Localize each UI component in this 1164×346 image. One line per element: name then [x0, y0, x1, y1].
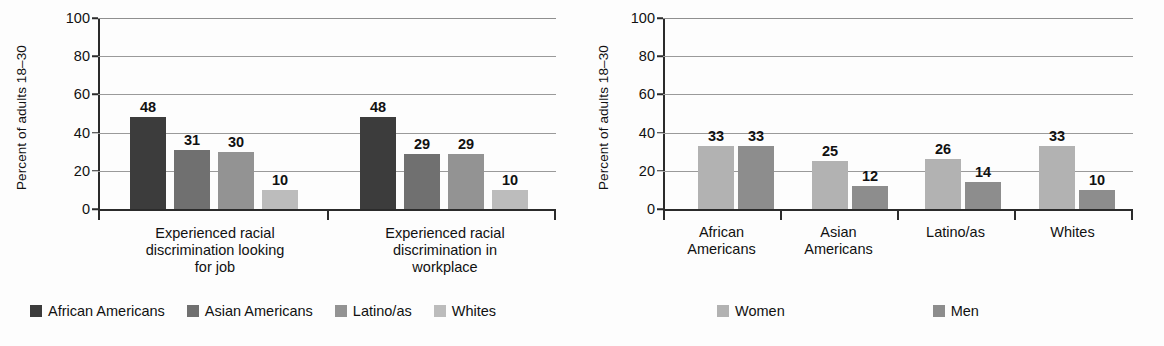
left-xcat-label-job: Experienced racial discrimination lookin…: [100, 225, 330, 276]
right-gridline-80: [663, 56, 1133, 57]
legend-label: Whites: [452, 303, 496, 319]
right-ytick-mark-80: [657, 55, 663, 57]
xcat-line: workplace: [330, 259, 560, 276]
right-plot-area: 100 80 60 40 20 0 33 33 25 12 26: [663, 18, 1133, 211]
right-y-axis-line: [663, 18, 665, 211]
right-ytick-label-60: 60: [639, 86, 655, 102]
bar-women-african-americans[interactable]: 33: [698, 146, 734, 209]
bar-women-latinoas[interactable]: 26: [925, 159, 961, 209]
xcat-line: African: [663, 224, 780, 241]
right-xtick-4: [1131, 211, 1133, 220]
left-ytick-mark-20: [92, 170, 98, 172]
xcat-line: Americans: [663, 241, 780, 258]
bar-value: 10: [272, 172, 288, 188]
right-ytick-mark-20: [657, 170, 663, 172]
right-xtick-0: [663, 211, 665, 220]
legend-label: Men: [951, 303, 979, 319]
right-xtick-3: [1014, 211, 1016, 220]
bar-value: 48: [140, 99, 156, 115]
bar-women-whites[interactable]: 33: [1039, 146, 1075, 209]
bar-latinoas-job[interactable]: 30: [218, 152, 254, 209]
left-ytick-mark-80: [92, 55, 98, 57]
legend-item-women[interactable]: Women: [717, 303, 785, 319]
left-xtick-mid: [327, 211, 329, 220]
xcat-line: for job: [100, 259, 330, 276]
legend-label: Latino/as: [353, 303, 412, 319]
left-ytick-label-20: 20: [74, 163, 90, 179]
right-xcat-label-whites: Whites: [1014, 224, 1131, 241]
xcat-line: Experienced racial: [100, 225, 330, 242]
right-ytick-label-80: 80: [639, 48, 655, 64]
left-ytick-mark-40: [92, 132, 98, 134]
legend-label: African Americans: [48, 303, 165, 319]
legend-swatch-icon: [434, 305, 446, 317]
bar-value: 10: [502, 172, 518, 188]
legend-item-men[interactable]: Men: [933, 303, 979, 319]
right-xtick-2: [897, 211, 899, 220]
bar-men-asian-americans[interactable]: 12: [852, 186, 888, 209]
bar-asian-americans-job[interactable]: 31: [174, 150, 210, 209]
xcat-line: Whites: [1014, 224, 1131, 241]
xcat-line: Americans: [780, 241, 897, 258]
bar-african-americans-job[interactable]: 48: [130, 117, 166, 209]
bar-value: 30: [228, 134, 244, 150]
legend-label: Women: [735, 303, 785, 319]
right-ytick-label-0: 0: [647, 201, 655, 217]
left-plot-area: 100 80 60 40 20 0 48 31 30 10 48: [98, 18, 556, 211]
legend-item-latinoas[interactable]: Latino/as: [335, 303, 412, 319]
right-xtick-1: [780, 211, 782, 220]
bar-value: 29: [458, 136, 474, 152]
chart-racial-discrimination-by-group: Percent of adults 18–30 100 80 60 40 20 …: [0, 0, 582, 346]
chart-page: Percent of adults 18–30 100 80 60 40 20 …: [0, 0, 1164, 346]
left-xcat-label-workplace: Experienced racial discrimination in wor…: [330, 225, 560, 276]
left-ytick-label-80: 80: [74, 48, 90, 64]
xcat-line: discrimination in: [330, 242, 560, 259]
bar-whites-job[interactable]: 10: [262, 190, 298, 209]
legend-swatch-icon: [187, 305, 199, 317]
bar-value: 31: [184, 132, 200, 148]
bar-men-whites[interactable]: 10: [1079, 190, 1115, 209]
left-ytick-label-60: 60: [74, 86, 90, 102]
xcat-line: Latino/as: [897, 224, 1014, 241]
legend-swatch-icon: [717, 305, 729, 317]
bar-value: 14: [975, 164, 991, 180]
xcat-line: discrimination looking: [100, 242, 330, 259]
legend-swatch-icon: [30, 305, 42, 317]
xcat-line: Asian: [780, 224, 897, 241]
right-ytick-label-40: 40: [639, 125, 655, 141]
bar-asian-americans-workplace[interactable]: 29: [404, 154, 440, 209]
right-ytick-mark-40: [657, 132, 663, 134]
bar-whites-workplace[interactable]: 10: [492, 190, 528, 209]
right-y-axis-label: Percent of adults 18–30: [596, 28, 611, 208]
bar-value: 29: [414, 136, 430, 152]
bar-value: 33: [748, 128, 764, 144]
legend-item-asian-americans[interactable]: Asian Americans: [187, 303, 313, 319]
bar-value: 10: [1089, 172, 1105, 188]
bar-men-latinoas[interactable]: 14: [965, 182, 1001, 209]
left-ytick-mark-100: [92, 17, 98, 19]
right-gridline-60: [663, 94, 1133, 95]
left-y-axis-label: Percent of adults 18–30: [14, 28, 29, 208]
left-ytick-mark-0: [92, 208, 98, 210]
bar-value: 33: [1049, 128, 1065, 144]
legend-swatch-icon: [335, 305, 347, 317]
left-legend: African Americans Asian Americans Latino…: [30, 303, 550, 319]
legend-item-whites[interactable]: Whites: [434, 303, 496, 319]
bar-value: 48: [370, 99, 386, 115]
bar-value: 26: [935, 141, 951, 157]
right-ytick-label-100: 100: [631, 10, 655, 26]
xcat-line: Experienced racial: [330, 225, 560, 242]
legend-item-african-americans[interactable]: African Americans: [30, 303, 165, 319]
right-xcat-label-latinoas: Latino/as: [897, 224, 1014, 241]
bar-men-african-americans[interactable]: 33: [738, 146, 774, 209]
left-xtick-end: [554, 211, 556, 220]
bar-women-asian-americans[interactable]: 25: [812, 161, 848, 209]
left-ytick-mark-60: [92, 94, 98, 96]
left-ytick-label-40: 40: [74, 125, 90, 141]
bar-latinoas-workplace[interactable]: 29: [448, 154, 484, 209]
bar-african-americans-workplace[interactable]: 48: [360, 117, 396, 209]
legend-swatch-icon: [933, 305, 945, 317]
left-xtick-start: [98, 211, 100, 220]
bar-value: 25: [822, 143, 838, 159]
left-gridline-40: [98, 133, 556, 134]
